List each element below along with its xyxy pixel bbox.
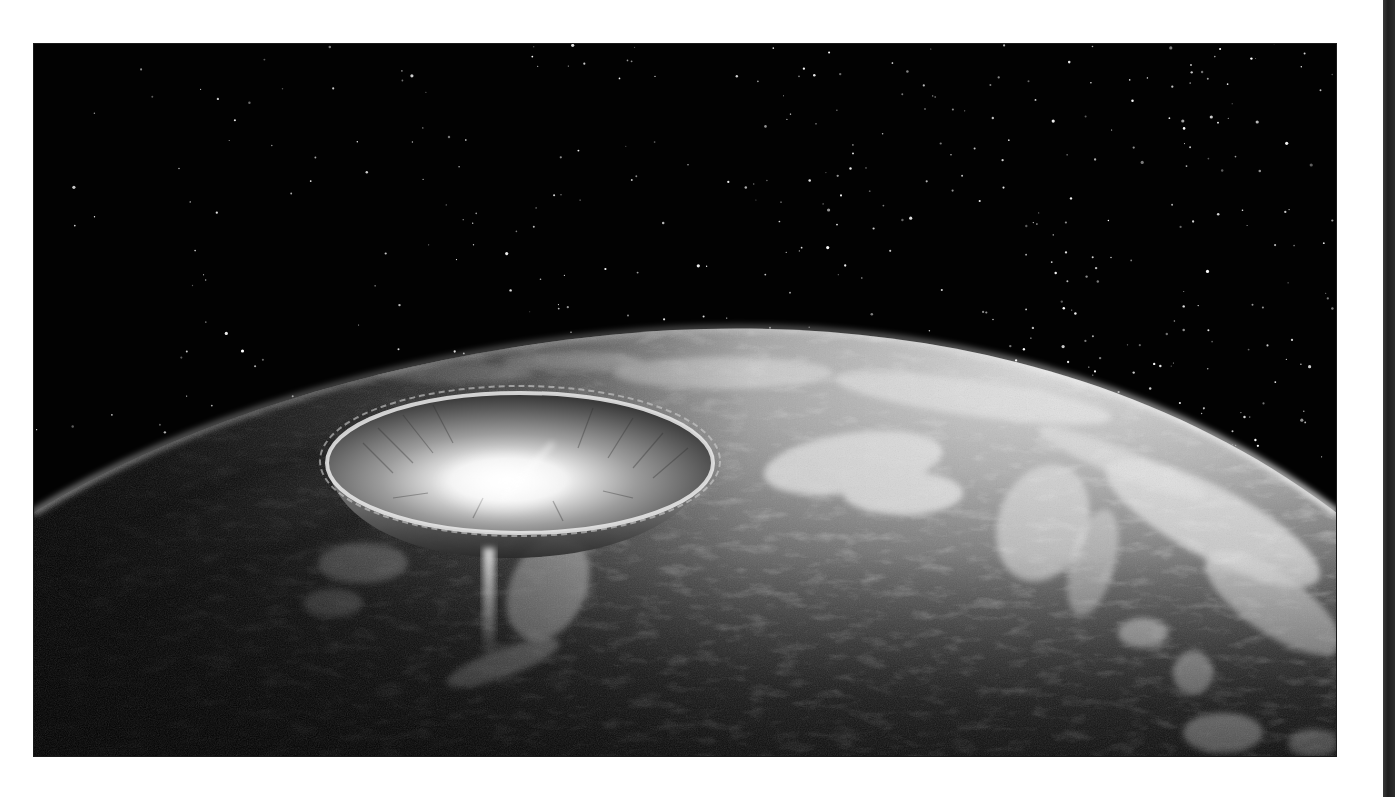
- page-edge-strip: [1383, 0, 1395, 797]
- page: Grayscale illustration of a large impact…: [0, 0, 1395, 797]
- space-impact-illustration: [33, 43, 1337, 757]
- illustration-canvas: [33, 43, 1337, 757]
